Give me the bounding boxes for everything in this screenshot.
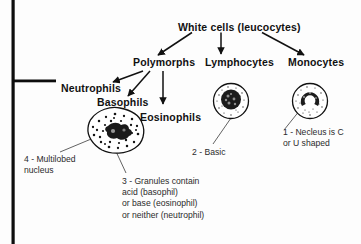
diagram-title: White cells (leucocytes) (178, 22, 301, 33)
label-lymphocytes: Lymphocytes (205, 57, 274, 68)
diagram-canvas: White cells (leucocytes) Polymorphs Lymp… (0, 0, 361, 244)
arrow-title-to-polymorphs (158, 33, 192, 56)
label-monocytes: Monocytes (288, 57, 344, 68)
horizontal-section-rule (13, 80, 56, 83)
annotation-note-3: 3 - Granules contain acid (basophil) or … (122, 176, 204, 221)
annotation-note-2: 2 - Basic (192, 147, 225, 158)
label-basophils: Basophils (97, 97, 149, 108)
leader-note2-to-lymphocyte (213, 118, 231, 144)
label-eosinophils: Eosinophils (140, 112, 201, 123)
polymorph-cell-illustration (88, 107, 144, 153)
label-neutrophils: Neutrophils (61, 83, 121, 94)
annotation-note-4: 4 - Multilobed nucleus (24, 154, 76, 176)
monocyte-cell-illustration (293, 84, 328, 119)
left-margin-rule (12, 0, 15, 244)
annotation-note-1: 1 - Necleus is C or U shaped (283, 127, 344, 149)
arrow-title-to-monocytes (262, 33, 304, 56)
lymphocyte-cell-illustration (214, 84, 249, 119)
arrow-polymorphs-to-neutrophils (113, 71, 143, 82)
label-polymorphs: Polymorphs (133, 57, 195, 68)
